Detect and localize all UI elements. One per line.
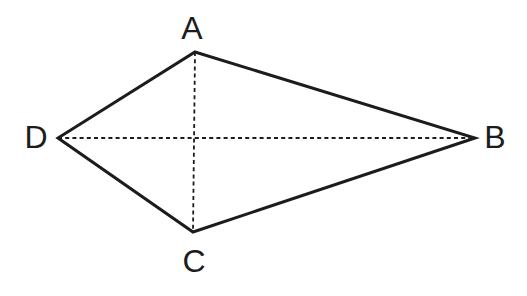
figure-canvas: ABCD: [0, 0, 527, 296]
kite-outline: [58, 52, 475, 232]
diagonal-AC: [193, 52, 195, 232]
vertex-label-D: D: [24, 119, 47, 155]
vertex-label-C: C: [182, 243, 205, 279]
vertex-label-B: B: [484, 119, 505, 155]
vertex-label-A: A: [181, 10, 203, 46]
kite-diagram: ABCD: [0, 0, 527, 296]
